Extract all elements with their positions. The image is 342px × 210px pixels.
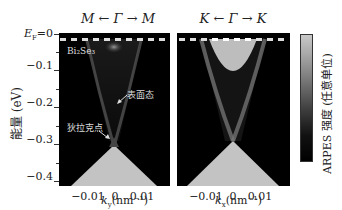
right-arpes-panel [177, 33, 290, 186]
fermi-dash [278, 38, 284, 41]
title-mid-label: Γ [228, 11, 237, 26]
colorbar [300, 34, 313, 162]
fermi-dash [190, 38, 196, 41]
y-axis-label: 能量 (eV) [7, 87, 24, 140]
arrow-right-icon: → [242, 11, 253, 26]
left-x-axis-label: ky(nm⁻¹) [101, 194, 148, 209]
title-right-label: M [142, 11, 155, 26]
annotation-arrows [59, 33, 170, 186]
k-symbol: k [215, 194, 222, 207]
fermi-dash [267, 38, 273, 41]
arrow-left-icon: ← [98, 11, 109, 26]
ytick-0.4: −0.4 [13, 170, 53, 183]
fermi-dash [234, 38, 240, 41]
fermi-dash [245, 38, 251, 41]
fermi-dash [223, 38, 229, 41]
title-mid-label: Γ [113, 11, 122, 26]
ytick-0.1: −0.1 [13, 59, 53, 72]
left-panel-title: M ← Γ → M [78, 11, 158, 26]
fermi-dash [201, 38, 207, 41]
fermi-dash [256, 38, 262, 41]
unit-label: (nm⁻¹) [112, 194, 148, 207]
right-panel-title: K ← Γ → K [193, 11, 273, 26]
right-x-axis-label: kx(nm⁻¹) [215, 194, 262, 209]
title-right-label: K [257, 11, 267, 26]
fermi-dash [179, 38, 185, 41]
colorbar-label: ARPES 强度 (任意单位) [318, 53, 334, 174]
ef-value: =0 [37, 27, 53, 40]
ef-symbol: E [24, 27, 32, 40]
k-symbol: k [101, 194, 108, 207]
title-left-label: M [81, 11, 94, 26]
unit-label: (nm⁻¹) [226, 194, 262, 207]
title-left-label: K [200, 11, 210, 26]
ytick-ef: EF=0 [13, 27, 53, 42]
left-arpes-panel: Bi₂Se₃ 表面态 狄拉克点 [59, 33, 170, 186]
arrow-left-icon: ← [213, 11, 224, 26]
right-arpes-image [177, 33, 290, 186]
fermi-dash [212, 38, 218, 41]
arrow-right-icon: → [127, 11, 138, 26]
